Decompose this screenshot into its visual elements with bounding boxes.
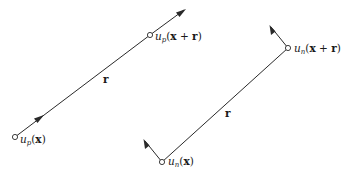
un-start-arrowhead-icon — [144, 139, 150, 149]
point-x-left — [12, 134, 17, 139]
point-x-plus-r-right — [285, 45, 290, 50]
right-panel-normal: un(x) un(x + r) r — [144, 25, 341, 169]
label-r-left: r — [103, 73, 109, 85]
point-x-plus-r-left — [147, 32, 152, 37]
label-un-x-plus-r: un(x + r) — [294, 42, 341, 56]
separation-line-left — [15, 35, 150, 137]
label-up-x: up(x) — [20, 133, 46, 147]
up-end-arrowhead-icon — [176, 9, 186, 17]
point-x-right — [159, 159, 164, 164]
left-panel-parallel: up(x) up(x + r) r — [12, 9, 201, 147]
un-end-arrowhead-icon — [270, 25, 276, 35]
label-r-right: r — [225, 107, 231, 119]
separation-line-right — [162, 48, 288, 162]
velocity-correlation-diagram: up(x) up(x + r) r un(x) un(x + r) r — [0, 0, 347, 177]
label-up-x-plus-r: up(x + r) — [155, 30, 202, 44]
label-un-x: un(x) — [168, 155, 194, 169]
